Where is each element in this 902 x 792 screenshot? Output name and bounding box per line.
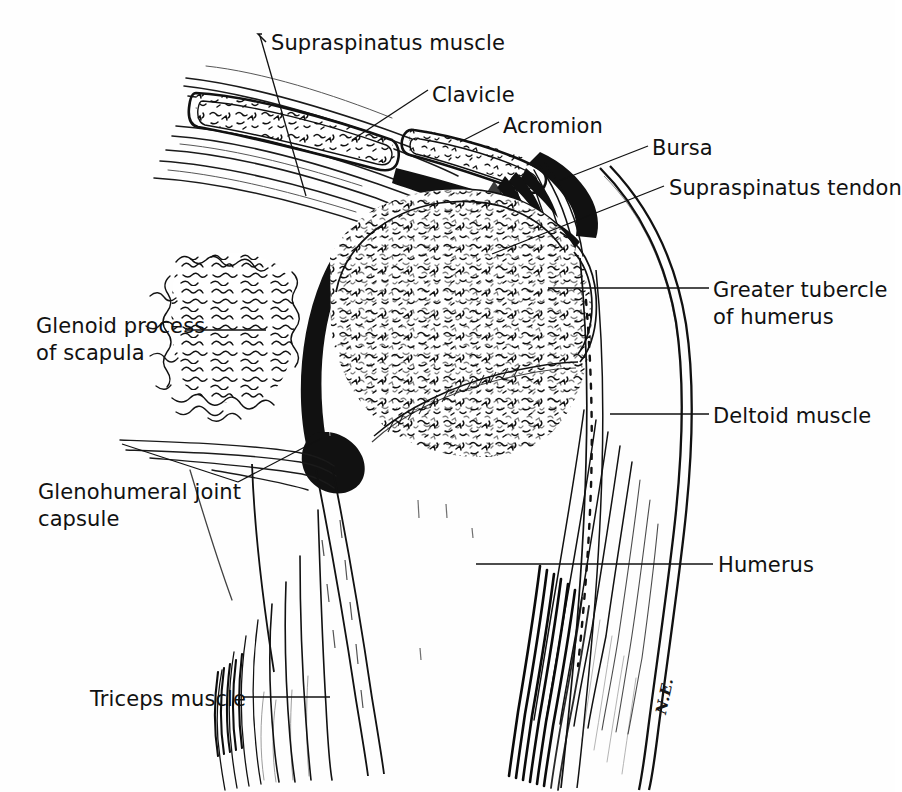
label-triceps-muscle: Triceps muscle: [90, 686, 246, 713]
label-clavicle: Clavicle: [432, 82, 515, 109]
label-bursa: Bursa: [652, 135, 713, 162]
label-glenoid-process-of-scapula: Glenoid process of scapula: [36, 313, 205, 367]
label-greater-tubercle-of-humerus: Greater tubercle of humerus: [713, 277, 888, 331]
label-humerus: Humerus: [718, 552, 814, 579]
label-supraspinatus-muscle: Supraspinatus muscle: [271, 30, 505, 57]
label-supraspinatus-tendon: Supraspinatus tendon: [669, 175, 902, 202]
label-deltoid-muscle: Deltoid muscle: [713, 403, 871, 430]
label-glenohumeral-joint-capsule: Glenohumeral joint capsule: [38, 479, 241, 533]
label-acromion: Acromion: [503, 113, 603, 140]
